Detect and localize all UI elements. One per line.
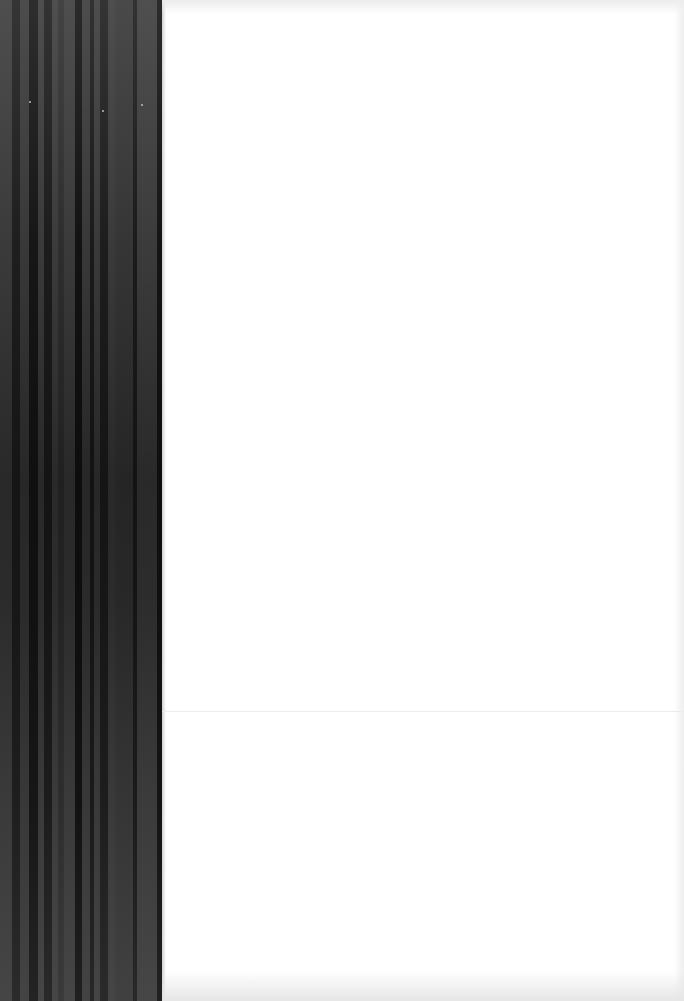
binding-stripe	[20, 0, 29, 1001]
page-right-vignette	[674, 0, 684, 1001]
binding-stripe	[108, 0, 115, 1001]
binding-stripe	[0, 0, 12, 1001]
binding-stripe	[29, 0, 38, 1001]
binding-stripe	[137, 0, 157, 1001]
binding-stripe	[44, 0, 52, 1001]
binding-stripe	[12, 0, 20, 1001]
book-binding-edge	[0, 0, 162, 1001]
scanned-page	[0, 0, 684, 1001]
page-bottom-vignette	[162, 971, 684, 1001]
dust-speck	[29, 101, 31, 103]
dust-speck	[102, 110, 104, 112]
fold-line	[162, 711, 684, 712]
page-top-vignette	[162, 0, 684, 14]
binding-stripe	[64, 0, 75, 1001]
binding-stripe	[115, 0, 133, 1001]
binding-stripe	[100, 0, 108, 1001]
binding-stripe	[75, 0, 82, 1001]
blank-page-area	[162, 0, 684, 1001]
binding-stripe	[82, 0, 90, 1001]
dust-speck	[141, 104, 143, 106]
page-gutter-shadow	[162, 0, 166, 1001]
